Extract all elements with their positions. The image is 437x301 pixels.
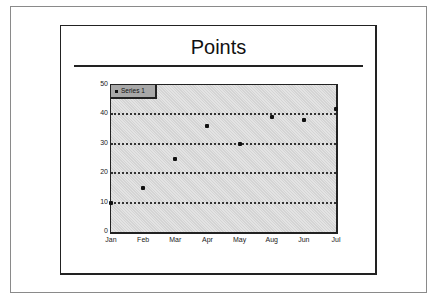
data-point: [109, 201, 113, 205]
gridline: [111, 143, 336, 145]
y-tick-label: 10: [90, 198, 108, 205]
gridline: [111, 202, 336, 204]
y-tick-label: 50: [90, 80, 108, 87]
gridline: [111, 172, 336, 174]
x-tick-label: Jan: [99, 236, 123, 243]
x-tick-label: Apr: [195, 236, 219, 243]
y-tick-label: 0: [90, 227, 108, 234]
x-tick-label: Mar: [163, 236, 187, 243]
data-point: [334, 107, 338, 111]
data-point: [302, 118, 306, 122]
x-tick-label: Jun: [292, 236, 316, 243]
x-tick-label: Aug: [260, 236, 284, 243]
legend: Series 1: [110, 84, 157, 99]
y-tick-label: 20: [90, 168, 108, 175]
chart-title: Points: [0, 36, 437, 59]
x-tick-label: May: [228, 236, 252, 243]
data-point: [238, 142, 242, 146]
data-point: [205, 124, 209, 128]
data-point: [141, 186, 145, 190]
title-underline: [74, 65, 363, 67]
data-point: [270, 115, 274, 119]
y-tick-label: 30: [90, 139, 108, 146]
legend-marker-icon: [115, 90, 118, 93]
plot-area: [110, 84, 338, 234]
legend-label: Series 1: [121, 87, 145, 94]
data-point: [173, 157, 177, 161]
x-tick-label: Jul: [324, 236, 348, 243]
y-tick-label: 40: [90, 109, 108, 116]
gridline: [111, 113, 336, 115]
x-tick-label: Feb: [131, 236, 155, 243]
